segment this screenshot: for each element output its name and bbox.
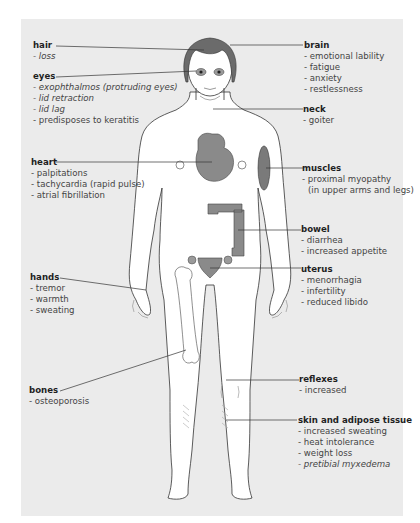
label-item: - increased bbox=[299, 385, 347, 396]
leader-hair bbox=[56, 46, 204, 50]
label-item: - increased appetite bbox=[301, 246, 387, 257]
label-title: eyes bbox=[33, 71, 178, 82]
label-item: - atrial fibrillation bbox=[31, 190, 145, 201]
label-item: - tachycardia (rapid pulse) bbox=[31, 179, 145, 190]
label-hands: hands - tremor - warmth - sweating bbox=[30, 272, 75, 316]
label-item: - sweating bbox=[30, 305, 75, 316]
label-item: - predisposes to keratitis bbox=[33, 115, 178, 126]
label-item: - pretibial myxedema bbox=[298, 459, 412, 470]
label-item: - palpitations bbox=[31, 168, 145, 179]
label-item: - warmth bbox=[30, 294, 75, 305]
label-item: - proximal myopathy bbox=[302, 174, 414, 185]
label-item: - diarrhea bbox=[301, 235, 387, 246]
label-title: uterus bbox=[301, 264, 368, 275]
label-title: bones bbox=[29, 385, 89, 396]
label-title: muscles bbox=[302, 163, 414, 174]
label-item: - infertility bbox=[301, 286, 368, 297]
label-hair: hair - loss bbox=[33, 40, 55, 62]
label-eyes: eyes - exophthalmos (protruding eyes) - … bbox=[33, 71, 178, 126]
label-item: - lid retraction bbox=[33, 93, 178, 104]
label-reflexes: reflexes - increased bbox=[299, 374, 347, 396]
label-bones: bones - osteoporosis bbox=[29, 385, 89, 407]
label-uterus: uterus - menorrhagia - infertility - red… bbox=[301, 264, 368, 308]
label-item: - lid lag bbox=[33, 104, 178, 115]
label-item: - reduced libido bbox=[301, 297, 368, 308]
label-title: neck bbox=[303, 104, 334, 115]
label-item: - goiter bbox=[303, 115, 334, 126]
label-item: - restlessness bbox=[304, 84, 384, 95]
label-item: - osteoporosis bbox=[29, 396, 89, 407]
label-heart: heart - palpitations - tachycardia (rapi… bbox=[31, 157, 145, 201]
label-title: heart bbox=[31, 157, 145, 168]
label-skin: skin and adipose tissue - increased swea… bbox=[298, 415, 412, 470]
label-muscles: muscles - proximal myopathy (in upper ar… bbox=[302, 163, 414, 196]
label-item: - increased sweating bbox=[298, 426, 412, 437]
label-item: - weight loss bbox=[298, 448, 412, 459]
label-title: brain bbox=[304, 40, 384, 51]
label-item: - emotional lability bbox=[304, 51, 384, 62]
label-item: (in upper arms and legs) bbox=[302, 185, 414, 196]
label-item: - fatigue bbox=[304, 62, 384, 73]
label-title: skin and adipose tissue bbox=[298, 415, 412, 426]
label-item: - menorrhagia bbox=[301, 275, 368, 286]
label-item: - tremor bbox=[30, 283, 75, 294]
label-item: - loss bbox=[33, 51, 55, 62]
label-title: bowel bbox=[301, 224, 387, 235]
label-brain: brain - emotional lability - fatigue - a… bbox=[304, 40, 384, 95]
label-title: hands bbox=[30, 272, 75, 283]
label-item: - heat intolerance bbox=[298, 437, 412, 448]
label-bowel: bowel - diarrhea - increased appetite bbox=[301, 224, 387, 257]
label-neck: neck - goiter bbox=[303, 104, 334, 126]
label-title: reflexes bbox=[299, 374, 347, 385]
label-item: - exophthalmos (protruding eyes) bbox=[33, 82, 178, 93]
label-title: hair bbox=[33, 40, 55, 51]
label-item: - anxiety bbox=[304, 73, 384, 84]
